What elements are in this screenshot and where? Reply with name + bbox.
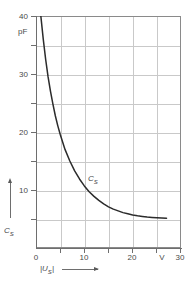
y-axis-unit-label: pF [18, 28, 27, 36]
y-axis-tick-label-10: 10 [8, 187, 28, 195]
x-axis-title: |US| [40, 265, 54, 276]
curve-label-subscript: S [94, 179, 98, 185]
x-axis-tick-label-10: 10 [74, 254, 94, 262]
y-axis-tick-label-30: 30 [8, 71, 28, 79]
x-axis-title-closing-bar: | [52, 264, 54, 273]
y-axis-title-subscript: S [10, 231, 14, 237]
y-axis-tick [31, 219, 36, 220]
y-axis-tick [31, 45, 36, 46]
y-axis-tick [31, 190, 36, 191]
x-axis-title-symbol: |U [40, 264, 48, 273]
y-axis-tick-label-20: 20 [8, 129, 28, 137]
y-axis-tick-label-40: 40 [8, 13, 28, 21]
x-axis-tick-label-0: 0 [26, 254, 46, 262]
curve-layer [36, 16, 181, 248]
capacitance-curve [41, 16, 167, 218]
y-axis-tick [31, 132, 36, 133]
capacitance-voltage-chart: 40 30 20 10 pF 0 10 20 V 30 CS CS |US| [0, 0, 194, 284]
capacitance-curve-svg [36, 16, 181, 248]
y-axis-tick [31, 161, 36, 162]
x-axis-line [36, 248, 182, 249]
x-axis-tick-label-20: 20 [122, 254, 142, 262]
x-axis-tick [156, 249, 157, 253]
x-axis-tick [108, 249, 109, 253]
y-axis-tick [31, 103, 36, 104]
y-axis-line [36, 16, 37, 249]
y-axis-tick [31, 16, 36, 17]
x-axis-unit-label: V [152, 254, 172, 262]
x-axis-direction-arrow [62, 269, 98, 270]
y-axis-direction-arrow [10, 182, 11, 218]
x-axis-tick-label-30: 30 [170, 254, 190, 262]
y-axis-tick [31, 74, 36, 75]
x-axis-tick [60, 249, 61, 253]
curve-label-cs: CS [88, 175, 98, 186]
y-axis-title: CS [4, 227, 14, 238]
